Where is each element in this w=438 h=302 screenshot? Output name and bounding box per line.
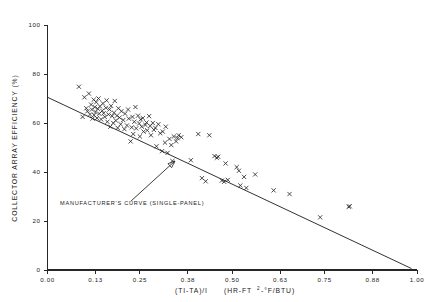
scatter-marker [101,101,105,105]
scatter-marker [126,107,130,111]
scatter-marker [147,114,151,118]
x-tick-label: 0.38 [181,276,195,283]
x-tick-label: 0.50 [225,276,239,283]
x-axis-tick-labels: 0.000.130.250.380.500.630.750.881.00 [40,276,424,283]
x-tick-label: 0.75 [317,276,331,283]
x-tick-label: 1.00 [410,276,424,283]
scatter-marker [149,133,153,137]
scatter-marker [136,114,140,118]
scatter-marker [132,120,136,124]
scatter-marker [115,114,119,118]
scatter-marker [169,143,173,147]
scatter-marker [105,98,109,102]
scatter-marker [153,126,157,130]
scatter-marker [119,122,123,126]
scatter-marker [158,131,162,135]
scatter-marker [151,121,155,125]
x-tick-label: 0.25 [133,276,147,283]
scatter-marker [137,121,141,125]
y-axis-title: COLLECTOR ARRAY EFFICIENCY (%) [11,74,19,221]
y-tick-label: 100 [28,21,40,28]
scatter-marker [77,85,81,89]
scatter-marker [134,126,138,130]
scatter-marker [125,123,129,127]
x-axis-title-group: (TI-TA)/I (HR-FT 2 -°F/BTU) [175,286,295,296]
scatter-marker [89,103,93,107]
x-tick-label: 0.63 [273,276,287,283]
x-axis-title-part3: -°F/BTU) [261,287,295,295]
y-axis-ticks [44,25,48,270]
x-axis-ticks [48,270,418,274]
scatter-marker [131,132,135,136]
scatter-marker [114,118,118,122]
scatter-marker [109,104,113,108]
y-axis-tick-labels: 020406080100 [28,21,40,273]
y-tick-label: 0 [36,266,40,273]
scatter-marker [164,125,168,129]
scatter-marker [105,120,109,124]
scatter-marker [113,99,117,103]
scatter-marker [82,95,86,99]
x-axis-title-part2: (HR-FT [224,287,252,295]
y-tick-label: 60 [32,119,40,126]
scatter-marker [237,169,241,173]
scatter-marker [196,132,200,136]
scatter-marker [156,122,160,126]
scatter-marker [235,165,239,169]
scatter-marker [204,179,208,183]
scatter-marker [130,125,134,129]
x-tick-label: 0.13 [88,276,102,283]
scatter-marker [242,175,246,179]
y-tick-label: 40 [32,168,40,175]
scatter-marker [179,135,183,139]
manufacturers-curve-line [48,97,412,268]
scatter-marker [129,139,133,143]
scatter-marker [253,172,257,176]
plot-axes [48,25,418,270]
figure-canvas: 020406080100 0.000.130.250.380.500.630.7… [0,0,438,302]
scatter-marker [81,115,85,119]
scatter-marker [103,115,107,119]
collector-efficiency-scatter-chart: 020406080100 0.000.130.250.380.500.630.7… [0,0,438,302]
x-axis-title-part1: (TI-TA)/I [175,287,208,295]
scatter-marker [99,117,103,121]
scatter-marker [94,100,98,104]
y-tick-label: 20 [32,217,40,224]
scatter-marker [96,96,100,100]
scatter-marker [318,215,322,219]
annotation-leader [131,161,175,201]
scatter-marker [133,105,137,109]
scatter-marker [167,137,171,141]
scatter-marker [117,116,121,120]
scatter-marker [216,155,220,159]
x-tick-label: 0.88 [365,276,379,283]
scatter-marker [119,109,123,113]
x-tick-label: 0.00 [40,276,54,283]
scatter-marker [123,112,127,116]
scatter-marker [163,141,167,145]
scatter-marker [287,192,291,196]
scatter-marker [207,133,211,137]
manufacturers-curve-annotation: MANUFACTURER'S CURVE (SINGLE-PANEL) [60,200,204,206]
scatter-marker [145,128,149,132]
scatter-marker [141,129,145,133]
scatter-marker [223,161,227,165]
scatter-marker [189,158,193,162]
y-tick-label: 80 [32,70,40,77]
scatter-marker [161,129,165,133]
scatter-marker [244,186,248,190]
scatter-marker [272,188,276,192]
scatter-marker [122,127,126,131]
scatter-marker [121,118,125,122]
scatter-marker [138,134,142,138]
scatter-marker [88,112,92,116]
x-axis-title-superscript: 2 [257,286,260,291]
annotation-leader-line [131,161,175,201]
scatter-marker [87,92,91,96]
